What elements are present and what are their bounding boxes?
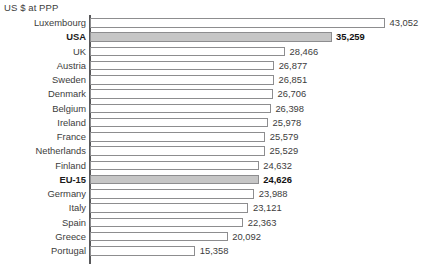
- bar-value-label: 25,978: [273, 118, 302, 127]
- bar: [90, 18, 385, 28]
- bar-value-label: 15,358: [200, 246, 229, 255]
- category-label: Italy: [69, 204, 86, 213]
- category-label: Portugal: [51, 246, 86, 255]
- bar-value-label: 26,877: [279, 61, 308, 70]
- bar: [90, 218, 243, 228]
- category-label: Sweden: [52, 75, 86, 84]
- bar-row: France25,579: [0, 130, 424, 144]
- category-label: Ireland: [57, 118, 86, 127]
- bar-value-label: 25,529: [269, 147, 298, 156]
- bar: [90, 47, 285, 57]
- category-label: Greece: [55, 232, 86, 241]
- bar-row: Sweden26,851: [0, 73, 424, 87]
- category-label: France: [57, 132, 86, 141]
- bar-row: Denmark26,706: [0, 87, 424, 101]
- bar: [90, 89, 273, 99]
- bar-row: Greece20,092: [0, 230, 424, 244]
- bar-chart: US $ at PPP Luxembourg43,052USA35,259UK2…: [0, 0, 424, 270]
- bar: [90, 104, 271, 114]
- bar-value-label: 26,706: [277, 90, 306, 99]
- bar: [90, 246, 195, 256]
- bar-row: Finland24,632: [0, 159, 424, 173]
- category-label: EU-15: [59, 175, 86, 184]
- bar-value-label: 25,579: [270, 132, 299, 141]
- bar-row: Italy23,121: [0, 201, 424, 215]
- bar: [90, 146, 265, 156]
- bar-row: Belgium26,398: [0, 102, 424, 116]
- category-label: Belgium: [52, 104, 86, 113]
- bar-value-label: 24,626: [263, 175, 292, 184]
- bar-value-label: 43,052: [390, 18, 419, 27]
- bar-value-label: 23,988: [259, 189, 288, 198]
- bar: [90, 189, 254, 199]
- bar-row: Ireland25,978: [0, 116, 424, 130]
- bar-row: Austria26,877: [0, 59, 424, 73]
- bar-row: Spain22,363: [0, 216, 424, 230]
- bar: [90, 32, 332, 42]
- bar: [90, 232, 228, 242]
- bar-row: Germany23,988: [0, 187, 424, 201]
- bar: [90, 132, 265, 142]
- bar: [90, 118, 268, 128]
- bar-row: Luxembourg43,052: [0, 16, 424, 30]
- bar: [90, 75, 274, 85]
- bar: [90, 203, 248, 213]
- category-label: UK: [73, 47, 86, 56]
- bar-row: EU-1524,626: [0, 173, 424, 187]
- chart-title: US $ at PPP: [4, 2, 58, 13]
- bar: [90, 61, 274, 71]
- bar-row: UK28,466: [0, 45, 424, 59]
- category-label: Finland: [55, 161, 86, 170]
- bar-value-label: 35,259: [336, 33, 365, 42]
- bar-value-label: 26,398: [275, 104, 304, 113]
- category-label: Spain: [62, 218, 86, 227]
- bar-value-label: 26,851: [278, 75, 307, 84]
- bar-value-label: 23,121: [253, 204, 282, 213]
- bar: [90, 175, 259, 185]
- bar-value-label: 20,092: [232, 232, 261, 241]
- category-label: Germany: [47, 189, 86, 198]
- bar-value-label: 24,632: [263, 161, 292, 170]
- plot-area: Luxembourg43,052USA35,259UK28,466Austria…: [0, 15, 424, 270]
- bar: [90, 161, 259, 171]
- category-label: Denmark: [48, 90, 86, 99]
- bar-value-label: 22,363: [248, 218, 277, 227]
- bar-row: Netherlands25,529: [0, 144, 424, 158]
- bar-row: USA35,259: [0, 30, 424, 44]
- bar-value-label: 28,466: [290, 47, 319, 56]
- category-label: Netherlands: [35, 147, 86, 156]
- category-label: USA: [66, 33, 86, 42]
- category-label: Austria: [57, 61, 86, 70]
- category-label: Luxembourg: [34, 18, 86, 27]
- bar-row: Portugal15,358: [0, 244, 424, 258]
